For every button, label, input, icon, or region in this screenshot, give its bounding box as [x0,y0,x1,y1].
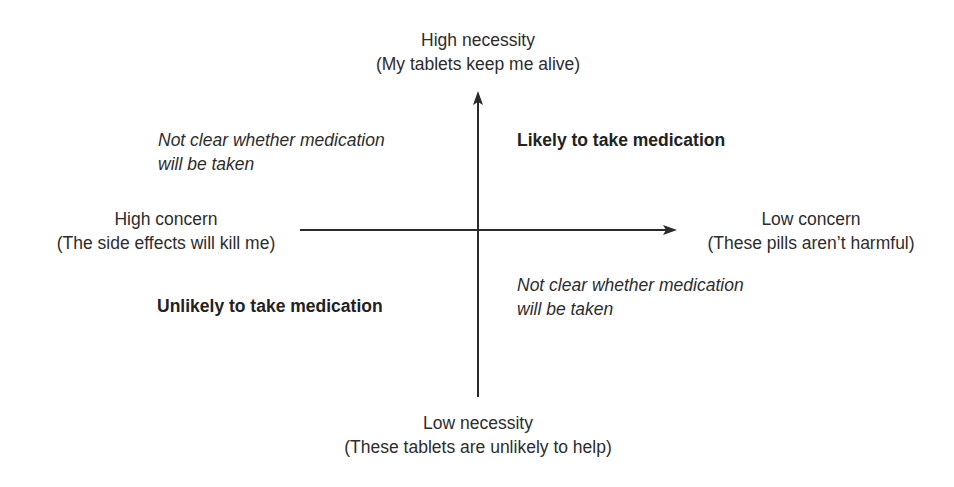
low-concern-title: Low concern [676,207,946,231]
quadrant-top-left: Not clear whether medication will be tak… [158,128,385,176]
low-concern-example: (These pills aren’t harmful) [676,231,946,255]
quadrant-top-right: Likely to take medication [517,128,725,152]
low-necessity-label: Low necessity (These tablets are unlikel… [298,411,658,459]
quadrant-text-line: Likely to take medication [517,128,725,152]
quadrant-text-line: Unlikely to take medication [157,294,383,318]
high-necessity-label: High necessity (My tablets keep me alive… [318,28,638,76]
necessity-concern-quadrant-diagram: High necessity (My tablets keep me alive… [0,0,954,487]
low-concern-label: Low concern (These pills aren’t harmful) [676,207,946,255]
high-concern-example: (The side effects will kill me) [28,231,304,255]
horizontal-axis [300,225,677,235]
quadrant-text-line: Not clear whether medication [517,273,744,297]
quadrant-text-line: will be taken [158,152,385,176]
quadrant-bottom-right: Not clear whether medication will be tak… [517,273,744,321]
vertical-axis [473,91,483,397]
quadrant-text-line: will be taken [517,297,744,321]
low-necessity-title: Low necessity [298,411,658,435]
quadrant-bottom-left: Unlikely to take medication [157,294,383,318]
high-concern-title: High concern [28,207,304,231]
high-concern-label: High concern (The side effects will kill… [28,207,304,255]
high-necessity-title: High necessity [318,28,638,52]
low-necessity-example: (These tablets are unlikely to help) [298,435,658,459]
quadrant-text-line: Not clear whether medication [158,128,385,152]
high-necessity-example: (My tablets keep me alive) [318,52,638,76]
